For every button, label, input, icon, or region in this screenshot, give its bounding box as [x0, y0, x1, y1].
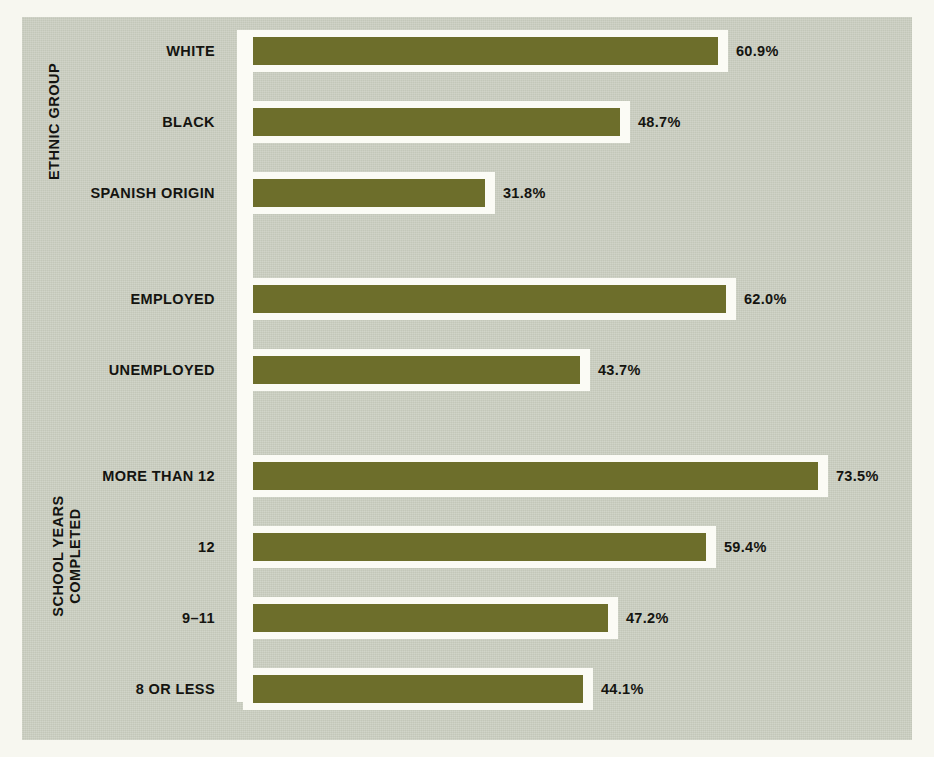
bar-outline [243, 597, 618, 639]
bar-value-label: 47.2% [626, 597, 669, 639]
bar-outline [243, 101, 630, 143]
bar-value-label: 73.5% [836, 455, 879, 497]
bar-value-label: 60.9% [736, 30, 779, 72]
bar-value-label: 59.4% [724, 526, 767, 568]
bar-row: UNEMPLOYED43.7% [22, 349, 912, 391]
bar-row: BLACK48.7% [22, 101, 912, 143]
bar-fill[interactable] [253, 285, 726, 313]
bar-value-label: 62.0% [744, 278, 787, 320]
bar-fill[interactable] [253, 108, 620, 136]
bar-outline [243, 526, 716, 568]
group-caption-line-1: SCHOOL YEARS [50, 495, 66, 617]
bar-value-label: 43.7% [598, 349, 641, 391]
bar-outline [243, 30, 728, 72]
bar-outline [243, 455, 828, 497]
group-caption-ethnic-group: ETHNIC GROUP [46, 42, 63, 202]
bar-row: MORE THAN 1273.5% [22, 455, 912, 497]
bar-value-label: 48.7% [638, 101, 681, 143]
bar-row: EMPLOYED62.0% [22, 278, 912, 320]
bar-outline [243, 172, 495, 214]
bar-row-label: UNEMPLOYED [22, 362, 239, 378]
bar-value-label: 31.8% [503, 172, 546, 214]
bar-row-label: 8 OR LESS [22, 681, 239, 697]
bar-fill[interactable] [253, 179, 485, 207]
bar-fill[interactable] [253, 37, 718, 65]
bar-fill[interactable] [253, 356, 580, 384]
bar-fill[interactable] [253, 604, 608, 632]
bar-value-label: 44.1% [601, 668, 644, 710]
bar-row: WHITE60.9% [22, 30, 912, 72]
group-caption-school-years-completed: SCHOOL YEARS COMPLETED [50, 471, 84, 641]
bar-row: 1259.4% [22, 526, 912, 568]
bar-outline [243, 668, 593, 710]
chart-plot-area: ETHNIC GROUP SCHOOL YEARS COMPLETED WHIT… [22, 17, 912, 740]
bar-fill[interactable] [253, 533, 706, 561]
chart-root: ETHNIC GROUP SCHOOL YEARS COMPLETED WHIT… [0, 0, 934, 757]
bar-row-label: EMPLOYED [22, 291, 239, 307]
bar-row: SPANISH ORIGIN31.8% [22, 172, 912, 214]
bar-fill[interactable] [253, 462, 818, 490]
bar-outline [243, 278, 736, 320]
bar-outline [243, 349, 590, 391]
bar-row: 8 OR LESS44.1% [22, 668, 912, 710]
bar-fill[interactable] [253, 675, 583, 703]
group-caption-line-2: COMPLETED [67, 508, 83, 604]
bar-row: 9–1147.2% [22, 597, 912, 639]
